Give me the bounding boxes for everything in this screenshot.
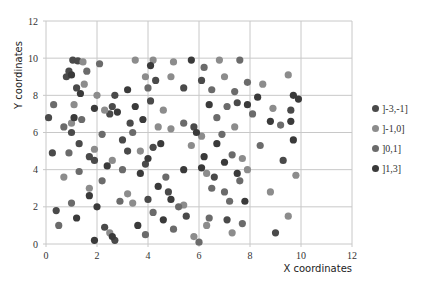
y-tick-label: 12 [28,16,38,27]
data-point [137,147,144,154]
data-point [119,166,126,173]
data-point [183,213,190,220]
data-point [93,203,100,210]
axis-ticks: 024681012024681012 [28,16,357,262]
data-point [292,172,299,179]
legend-marker-icon [372,165,379,172]
data-point [49,149,56,156]
data-point [93,92,100,99]
data-point [267,118,274,125]
data-point [79,58,86,65]
data-point [267,188,274,195]
data-point [50,101,57,108]
data-point [134,222,141,229]
data-point [269,105,276,112]
data-point [244,79,251,86]
data-point [109,233,116,240]
data-point [86,185,93,192]
scatter-chart: 024681012024681012 X coordinates Y coord… [0,0,424,285]
data-point [147,97,154,104]
data-point [285,71,292,78]
data-point [91,157,98,164]
data-point [236,177,243,184]
data-point [119,136,126,143]
data-point [109,103,116,110]
data-point [77,90,84,97]
x-tick-label: 6 [197,250,202,261]
data-point [132,103,139,110]
data-point [223,216,230,223]
data-point [78,116,85,123]
data-point [167,196,174,203]
data-point [226,198,233,205]
data-point [60,123,67,130]
data-point [101,107,108,114]
x-axis-title: X coordinates [283,263,352,274]
data-point [165,188,172,195]
data-point [241,198,248,205]
data-point [175,203,182,210]
data-point [195,239,202,246]
data-point [150,144,157,151]
data-point [239,220,246,227]
data-point [160,216,167,223]
legend-item: ]0,1] [372,138,408,158]
data-point [229,229,236,236]
data-point [213,140,220,147]
data-point [147,62,154,69]
data-point [170,58,177,65]
data-point [290,136,297,143]
data-point [124,190,131,197]
data-point [157,140,164,147]
data-point [198,164,205,171]
data-point [144,196,151,203]
data-point [254,94,261,101]
data-point [111,92,118,99]
data-point [167,125,174,132]
data-point [99,177,106,184]
data-point [70,114,77,121]
data-point [68,129,75,136]
data-point [244,166,251,173]
data-point [221,73,228,80]
data-point [142,73,149,80]
data-point [53,207,60,214]
data-point [96,60,103,67]
data-point [127,120,134,127]
data-point [155,183,162,190]
data-point [249,110,256,117]
data-point [124,86,131,93]
x-tick-label: 10 [296,250,306,261]
data-point [81,81,88,88]
data-point [91,105,98,112]
data-point [295,95,302,102]
data-point [180,120,187,127]
data-point [188,56,195,63]
data-point [231,123,238,130]
data-point [218,131,225,138]
data-point [198,77,205,84]
y-axis-title: Y coordinates [13,41,24,110]
data-point [45,114,52,121]
data-point [211,174,218,181]
data-point [221,188,228,195]
data-point [259,81,266,88]
y-tick-label: 6 [33,127,38,138]
y-tick-label: 4 [33,164,38,175]
data-point [208,185,215,192]
data-point [229,151,236,158]
legend-item: ]-3,-1] [372,98,408,118]
data-point [234,99,241,106]
data-point [170,226,177,233]
data-point [137,170,144,177]
data-point [190,233,197,240]
data-point [76,168,83,175]
data-points [45,56,302,245]
data-point [155,123,162,130]
x-tick-label: 0 [44,250,49,261]
data-point [144,155,151,162]
data-point [65,149,72,156]
data-point [201,153,208,160]
x-tick-label: 2 [95,250,100,261]
data-point [68,71,75,78]
